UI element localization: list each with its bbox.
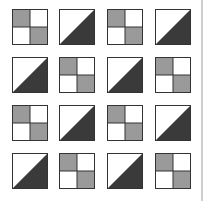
checker-pattern-icon: [60, 154, 94, 188]
diagonal-triangle-icon: [60, 10, 94, 44]
diagonal-triangle-icon: [156, 10, 190, 44]
diagonal-tile: [107, 57, 143, 93]
checker-pattern-icon: [108, 106, 142, 140]
diagonal-triangle-icon: [60, 106, 94, 140]
checker-pattern-icon: [108, 10, 142, 44]
checker-tile: [107, 9, 143, 45]
checker-tile: [59, 153, 95, 189]
diagonal-tile: [155, 105, 191, 141]
checker-pattern-icon: [13, 106, 47, 140]
checker-tile: [155, 153, 191, 189]
checker-tile: [12, 9, 48, 45]
checker-tile: [155, 57, 191, 93]
diagonal-triangle-icon: [13, 58, 47, 92]
diagonal-tile: [59, 105, 95, 141]
diagonal-triangle-icon: [13, 154, 47, 188]
diagonal-triangle-icon: [156, 106, 190, 140]
tile-grid: [12, 9, 194, 191]
checker-tile: [12, 105, 48, 141]
checker-pattern-icon: [60, 58, 94, 92]
checker-pattern-icon: [156, 58, 190, 92]
checker-pattern-icon: [156, 154, 190, 188]
checker-tile: [107, 105, 143, 141]
checker-tile: [59, 57, 95, 93]
diagonal-triangle-icon: [108, 58, 142, 92]
diagonal-tile: [155, 9, 191, 45]
diagonal-tile: [12, 153, 48, 189]
diagonal-triangle-icon: [108, 154, 142, 188]
checker-pattern-icon: [13, 10, 47, 44]
right-border-rule: [201, 0, 203, 201]
diagonal-tile: [59, 9, 95, 45]
diagonal-tile: [12, 57, 48, 93]
diagonal-tile: [107, 153, 143, 189]
